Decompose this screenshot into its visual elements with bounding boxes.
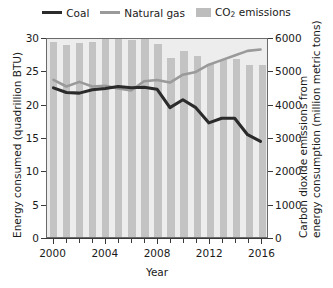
y-left-tick-10 <box>41 171 46 172</box>
chart-legend: Coal Natural gas CO2 emissions <box>0 6 333 19</box>
y-left-tick-label-25: 25 <box>26 66 39 77</box>
legend-swatch-natural-gas-line-icon <box>100 11 120 14</box>
y-axis-right-title-line1: Carbon dioxide emissions from <box>297 20 310 238</box>
x-tick-2013 <box>222 238 223 243</box>
x-tick-2011 <box>196 238 197 243</box>
x-tick-2012 <box>209 238 210 244</box>
legend-label-co2-tail: emissions <box>235 6 290 18</box>
x-tick-2008 <box>157 238 158 244</box>
legend-item-coal: Coal <box>42 7 89 19</box>
x-tick-2001 <box>66 238 67 243</box>
chart-figure: Coal Natural gas CO2 emissions 051015202… <box>0 0 333 288</box>
legend-item-natural-gas: Natural gas <box>100 7 185 19</box>
y-right-tick-1000 <box>268 205 273 206</box>
x-tick-2014 <box>235 238 236 243</box>
y-left-tick-label-0: 0 <box>32 233 39 244</box>
x-tick-2009 <box>170 238 171 243</box>
legend-label-natural-gas: Natural gas <box>124 7 185 19</box>
legend-label-coal: Coal <box>66 7 89 19</box>
x-axis: 20002004200820122016 <box>46 238 268 239</box>
legend-swatch-coal-line-icon <box>42 11 62 14</box>
y-right-tick-6000 <box>268 38 273 39</box>
x-tick-label-2008: 2008 <box>144 247 171 259</box>
y-left-tick-5 <box>41 205 46 206</box>
y-left-tick-label-10: 10 <box>26 166 39 177</box>
y-axis-right-title-line2: energy consumption (million metric tons) <box>310 20 323 238</box>
x-tick-label-2000: 2000 <box>39 247 66 259</box>
y-right-tick-label-0: 0 <box>275 233 282 244</box>
y-right-tick-3000 <box>268 138 273 139</box>
x-tick-2005 <box>118 238 119 243</box>
y-left-tick-20 <box>41 105 46 106</box>
line-series-svg <box>47 39 267 237</box>
line-series-group <box>47 39 267 237</box>
x-tick-label-2004: 2004 <box>91 247 118 259</box>
y-left-tick-label-30: 30 <box>26 33 39 44</box>
legend-swatch-co2-bar-icon <box>196 8 211 17</box>
x-tick-2003 <box>92 238 93 243</box>
x-tick-2002 <box>79 238 80 243</box>
y-right-tick-5000 <box>268 71 273 72</box>
y-right-tick-0 <box>268 238 273 239</box>
y-axis-right-title: Carbon dioxide emissions from energy con… <box>297 20 323 238</box>
legend-label-co2-emissions: CO2 emissions <box>215 6 291 19</box>
x-tick-2007 <box>144 238 145 243</box>
y-axis-left: 051015202530 <box>46 38 47 238</box>
line-natural-gas <box>53 50 260 91</box>
legend-item-co2-emissions: CO2 emissions <box>196 6 291 19</box>
x-tick-2015 <box>248 238 249 243</box>
x-tick-2016 <box>261 238 262 244</box>
y-axis-right: 0100020003000400050006000 <box>267 38 268 238</box>
x-tick-2010 <box>183 238 184 243</box>
y-left-tick-label-5: 5 <box>32 199 39 210</box>
x-tick-label-2016: 2016 <box>248 247 275 259</box>
legend-label-co2-main: CO <box>215 6 231 18</box>
x-tick-label-2012: 2012 <box>196 247 223 259</box>
y-left-tick-30 <box>41 38 46 39</box>
y-right-tick-4000 <box>268 105 273 106</box>
x-tick-2000 <box>53 238 54 244</box>
line-coal <box>53 87 260 142</box>
y-left-tick-25 <box>41 71 46 72</box>
plot-area <box>46 38 268 238</box>
y-left-tick-label-15: 15 <box>26 133 39 144</box>
y-left-tick-label-20: 20 <box>26 99 39 110</box>
x-axis-title: Year <box>46 266 268 278</box>
y-right-tick-2000 <box>268 171 273 172</box>
x-tick-2006 <box>131 238 132 243</box>
y-left-tick-15 <box>41 138 46 139</box>
x-tick-2004 <box>105 238 106 244</box>
y-axis-left-title: Energy consumed (quadrillion BTU) <box>11 52 23 238</box>
